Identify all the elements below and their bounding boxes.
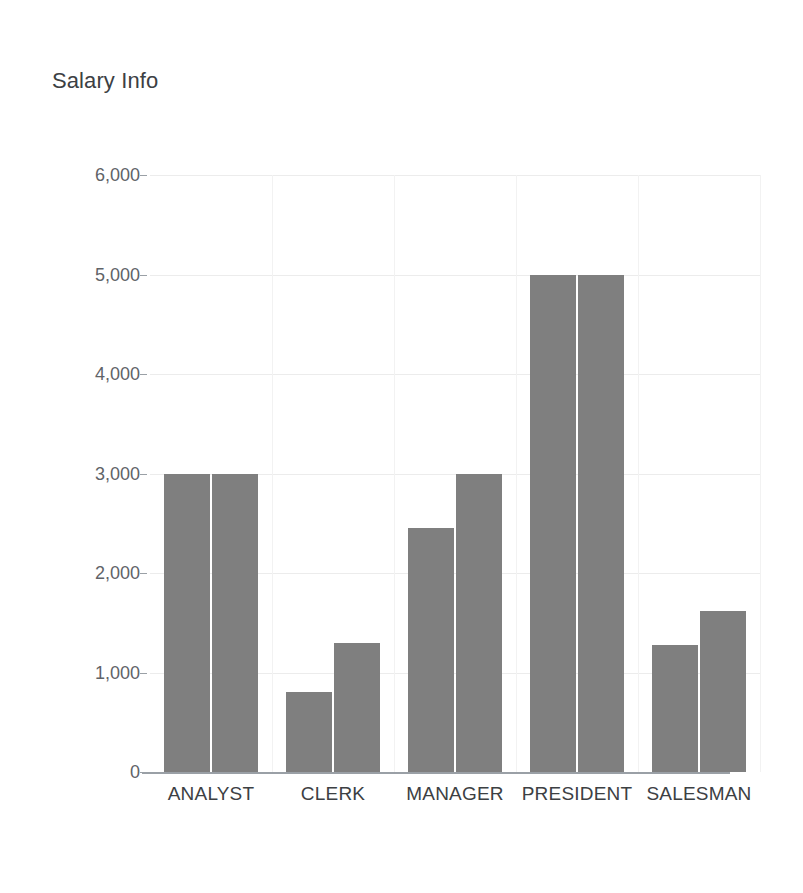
bar[interactable] (530, 275, 576, 773)
x-tick-label: MANAGER (406, 783, 503, 805)
bar[interactable] (700, 611, 746, 772)
bar[interactable] (164, 474, 210, 773)
plot-area (150, 175, 760, 772)
y-tick-label: 2,000 (50, 563, 140, 584)
bar[interactable] (652, 645, 698, 772)
y-tick-label: 5,000 (50, 264, 140, 285)
x-tick-label: SALESMAN (646, 783, 751, 805)
y-tick-label: 0 (50, 762, 140, 783)
bar[interactable] (578, 275, 624, 773)
y-tick-label: 1,000 (50, 662, 140, 683)
bar[interactable] (212, 474, 258, 773)
bar[interactable] (286, 692, 332, 772)
bar[interactable] (456, 474, 502, 773)
x-axis: ANALYSTCLERKMANAGERPRESIDENTSALESMAN (0, 783, 803, 823)
y-tick-label: 3,000 (50, 463, 140, 484)
y-tick-mark (140, 573, 147, 574)
gridline (760, 175, 761, 772)
y-tick-mark (140, 374, 147, 375)
x-axis-line (142, 772, 730, 774)
y-tick-mark (140, 275, 147, 276)
x-tick-label: PRESIDENT (522, 783, 633, 805)
y-tick-mark (140, 673, 147, 674)
y-tick-mark (140, 474, 147, 475)
x-tick-label: ANALYST (168, 783, 255, 805)
y-tick-mark (140, 175, 147, 176)
y-axis: 01,0002,0003,0004,0005,0006,000 (42, 0, 140, 893)
y-tick-label: 6,000 (50, 165, 140, 186)
bar[interactable] (334, 643, 380, 772)
x-tick-label: CLERK (301, 783, 365, 805)
bar[interactable] (408, 528, 454, 772)
bars-layer (150, 175, 760, 772)
chart-card: Salary Info 01,0002,0003,0004,0005,0006,… (0, 0, 803, 893)
y-tick-label: 4,000 (50, 364, 140, 385)
